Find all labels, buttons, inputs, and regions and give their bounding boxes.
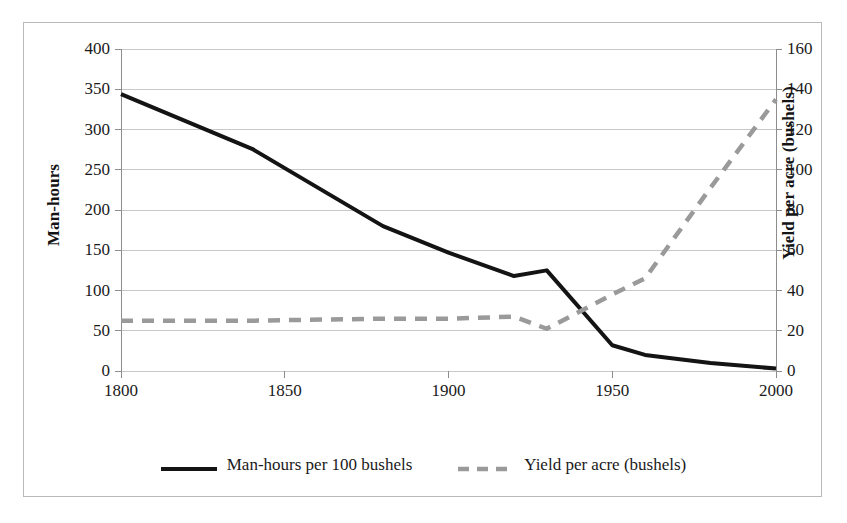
legend-dashed-line-icon — [458, 460, 514, 470]
legend-label: Yield per acre (bushels) — [524, 455, 686, 475]
data-series — [121, 94, 776, 369]
x-axis-tick-label: 2000 — [741, 381, 811, 401]
y-axis-left-tick-label: 300 — [56, 120, 110, 140]
axis-ticks — [115, 49, 782, 378]
y-axis-left-tick-label: 100 — [56, 281, 110, 301]
y-axis-right-tick-label: 60 — [787, 240, 841, 260]
y-axis-left-tick-label: 0 — [56, 361, 110, 381]
gridlines — [121, 49, 776, 371]
y-axis-right-tick-label: 80 — [787, 200, 841, 220]
y-axis-left-tick-label: 150 — [56, 240, 110, 260]
x-axis-tick-label: 1950 — [577, 381, 647, 401]
y-axis-right-tick-label: 100 — [787, 160, 841, 180]
chart-figure: Man-hours Yield per acre (bushels) 05010… — [0, 0, 847, 523]
x-axis-tick-label: 1800 — [86, 381, 156, 401]
y-axis-left-tick-label: 350 — [56, 79, 110, 99]
legend-item[interactable]: Yield per acre (bushels) — [458, 455, 686, 475]
chart-plot-svg — [24, 23, 821, 496]
x-axis-tick-label: 1900 — [414, 381, 484, 401]
chart-legend: Man-hours per 100 bushelsYield per acre … — [24, 455, 823, 475]
y-axis-left-tick-label: 50 — [56, 321, 110, 341]
legend-label: Man-hours per 100 bushels — [227, 455, 413, 475]
y-axis-right-tick-label: 0 — [787, 361, 841, 381]
y-axis-left-tick-label: 400 — [56, 39, 110, 59]
x-axis-tick-label: 1850 — [250, 381, 320, 401]
chart-frame: Man-hours Yield per acre (bushels) 05010… — [23, 22, 822, 497]
y-axis-right-tick-label: 40 — [787, 281, 841, 301]
y-axis-right-tick-label: 140 — [787, 79, 841, 99]
y-axis-right-tick-label: 160 — [787, 39, 841, 59]
legend-item[interactable]: Man-hours per 100 bushels — [161, 455, 413, 475]
legend-solid-line-icon — [161, 460, 217, 470]
y-axis-left-tick-label: 200 — [56, 200, 110, 220]
y-axis-right-tick-label: 120 — [787, 120, 841, 140]
y-axis-right-tick-label: 20 — [787, 321, 841, 341]
y-axis-left-tick-label: 250 — [56, 160, 110, 180]
